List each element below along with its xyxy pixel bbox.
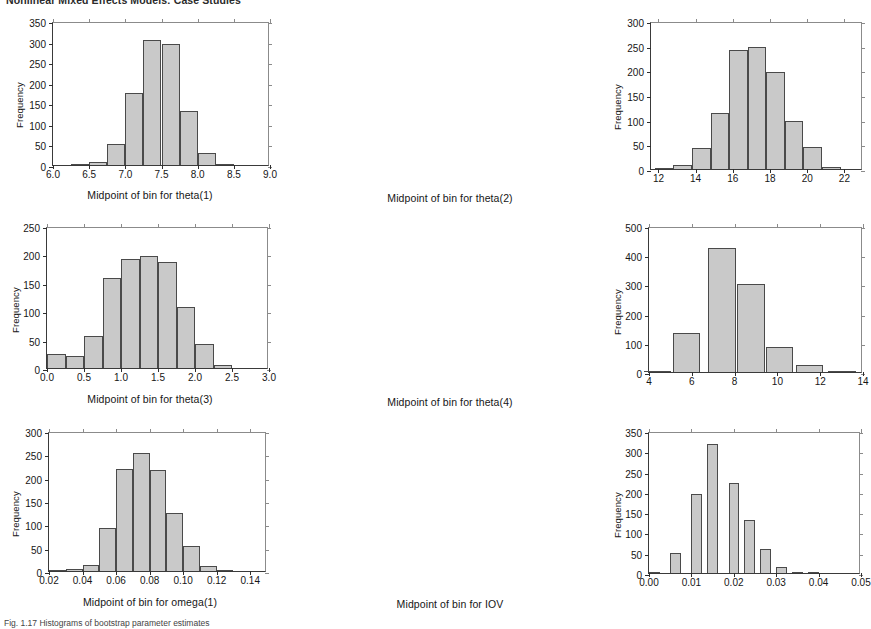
y-tick [647,146,651,147]
histogram-bar [670,553,681,573]
y-tick-label: 100 [625,529,642,540]
histogram-bar [177,307,196,368]
y-tick-label: 200 [625,310,642,321]
histogram-bar [89,162,107,165]
y-tick-right [861,72,865,73]
x-tick-top [269,224,270,228]
y-tick [45,480,49,481]
y-tick-right [267,313,271,314]
y-tick [49,64,53,65]
x-tick-top [776,429,777,433]
histogram-bar [195,344,214,368]
plot-inner: 050100150200250300121416182022 [651,23,861,169]
x-tick-top [696,19,697,23]
y-tick-right [268,64,272,65]
y-tick-right [268,23,272,24]
y-tick-right [861,122,865,123]
y-tick [49,85,53,86]
y-tick [645,286,649,287]
x-tick-label: 2.5 [225,372,239,383]
y-tick-right [268,146,272,147]
y-tick-label: 250 [25,451,42,462]
histogram-bar [766,347,794,372]
y-tick-right [265,433,269,434]
x-tick-top [47,224,48,228]
x-tick-label: 1.0 [114,372,128,383]
x-tick-top [250,429,251,433]
y-tick-right [268,105,272,106]
y-tick-right [861,228,865,229]
x-tick-label: 16 [727,173,738,184]
histogram-bar [183,546,200,571]
y-tick [45,433,49,434]
y-tick [645,534,649,535]
y-tick-label: 150 [627,92,644,103]
histogram-bar [162,44,180,165]
y-tick [645,316,649,317]
x-tick-top [863,224,864,228]
x-tick-top [234,19,235,23]
histogram-bar [133,453,150,571]
histogram-bar [766,72,785,169]
x-tick-top [819,429,820,433]
histogram-bar [71,164,89,166]
histogram-bar [776,567,787,573]
y-tick [645,453,649,454]
y-tick-right [861,257,865,258]
y-tick-right [859,494,863,495]
x-tick-top [844,19,845,23]
y-tick-right [268,44,272,45]
y-tick-label: 0 [636,369,642,380]
y-tick [647,122,651,123]
x-tick-label: 0.06 [106,575,125,586]
y-tick [43,228,47,229]
x-tick-label: 4 [646,376,652,387]
y-axis-label: Frequency [612,84,623,130]
x-tick-top [691,429,692,433]
y-tick [49,23,53,24]
histogram-bar [711,113,730,169]
histogram-bar [822,167,841,169]
histogram-panel-theta4: Frequency0100200300400500468101214Midpoi… [300,215,600,422]
x-tick-label: 0.0 [40,372,54,383]
plot-inner: 0100200300400500468101214 [649,228,861,372]
y-tick-right [267,228,271,229]
y-tick-label: 50 [29,336,40,347]
y-tick-label: 250 [29,59,46,70]
x-tick-label: 6 [689,376,695,387]
y-tick-right [268,85,272,86]
x-tick-top [183,429,184,433]
x-tick-top [53,19,54,23]
x-tick-label: 0.02 [39,575,58,586]
histogram-bar [66,356,85,368]
histogram-bar [83,565,100,571]
x-tick-top [649,429,650,433]
y-tick-label: 350 [625,428,642,439]
plot-area: 050100150200250300121416182022 [650,22,862,170]
plot-area: 0501001502002503000.020.040.060.080.100.… [48,432,266,572]
histogram-bar [644,371,672,373]
x-tick-top [158,224,159,228]
y-tick-right [861,316,865,317]
figure-caption: Fig. 1.17 Histograms of bootstrap parame… [4,618,524,629]
y-tick-label: 0 [638,166,644,177]
y-tick-label: 500 [625,223,642,234]
x-tick-label: 1.5 [151,372,165,383]
x-axis-label: Midpoint of bin for theta(1) [0,189,300,201]
x-tick-top [232,224,233,228]
histogram-panel-grid: Frequency0501001502002503003506.06.57.07… [0,8,600,618]
x-tick-top [84,224,85,228]
x-tick-top [807,19,808,23]
histogram-bar [143,40,161,165]
histogram-bar [803,147,822,169]
plot-area: 0501001502002500.00.51.01.52.02.53.0 [46,227,268,369]
y-tick-label: 300 [625,448,642,459]
y-tick-label: 50 [631,549,642,560]
y-axis-label: Frequency [10,287,21,333]
y-tick-label: 300 [25,428,42,439]
histogram-bar [748,47,767,169]
histogram-bar [708,248,736,372]
x-tick-top [820,224,821,228]
y-tick [647,97,651,98]
x-tick-label: 8.0 [191,169,205,180]
